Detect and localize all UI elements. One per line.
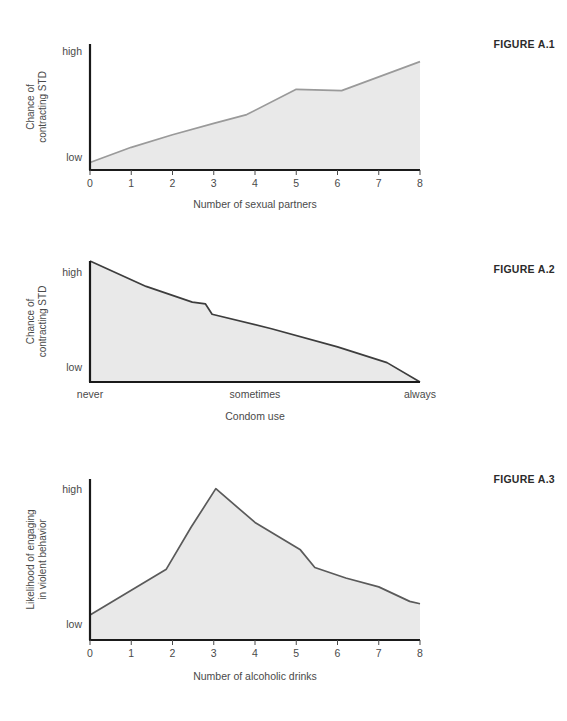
y-axis-title-line: Chance of xyxy=(25,298,36,344)
x-tick-label: 1 xyxy=(128,177,134,189)
area-fill xyxy=(90,261,420,382)
figure-a3-block: FIGURE A.3 highlow012345678Number of alc… xyxy=(0,455,567,705)
x-tick-label: 5 xyxy=(293,647,299,659)
y-tick-label-high: high xyxy=(62,266,82,278)
y-axis-title-line: in violent behavior xyxy=(37,519,48,600)
x-tick-label: 0 xyxy=(87,177,93,189)
y-axis-title-line: Likelihood of engaging xyxy=(25,509,36,609)
y-axis-title: Chance ofcontracting STD xyxy=(25,71,48,143)
y-axis-title-line: Chance of xyxy=(25,84,36,130)
y-tick-label-high: high xyxy=(62,483,82,495)
x-category-label: never xyxy=(77,388,104,400)
y-tick-label-low: low xyxy=(66,618,82,630)
x-tick-label: 2 xyxy=(170,647,176,659)
x-tick-label: 5 xyxy=(293,177,299,189)
figure-a2-plot: highlowneversometimesalwaysCondom useCha… xyxy=(0,245,460,440)
figure-a2-block: FIGURE A.2 highlowneversometimesalwaysCo… xyxy=(0,245,567,440)
figure-a3-plot: highlow012345678Number of alcoholic drin… xyxy=(0,455,460,705)
y-tick-label-low: low xyxy=(66,151,82,163)
x-tick-label: 4 xyxy=(252,647,258,659)
x-tick-label: 3 xyxy=(211,177,217,189)
area-fill xyxy=(90,62,420,170)
area-fill xyxy=(90,489,420,640)
figure-a2-caption: FIGURE A.2 xyxy=(493,263,555,275)
figure-a1-plot: highlow012345678Number of sexual partner… xyxy=(0,20,460,230)
x-category-label: always xyxy=(404,388,436,400)
x-category-label: sometimes xyxy=(230,388,281,400)
x-tick-label: 6 xyxy=(335,647,341,659)
figure-a3-caption: FIGURE A.3 xyxy=(493,473,555,485)
x-tick-label: 3 xyxy=(211,647,217,659)
x-tick-label: 7 xyxy=(376,647,382,659)
x-tick-label: 2 xyxy=(170,177,176,189)
x-tick-label: 8 xyxy=(417,177,423,189)
figure-a1-block: FIGURE A.1 highlow012345678Number of sex… xyxy=(0,20,567,230)
y-tick-label-high: high xyxy=(62,45,82,57)
y-axis-title-line: contracting STD xyxy=(37,71,48,143)
x-axis-title: Number of alcoholic drinks xyxy=(193,670,317,682)
x-axis-title: Number of sexual partners xyxy=(193,198,317,210)
x-tick-label: 0 xyxy=(87,647,93,659)
figure-a1-caption: FIGURE A.1 xyxy=(493,38,555,50)
x-tick-label: 8 xyxy=(417,647,423,659)
x-axis-title: Condom use xyxy=(225,410,285,422)
y-axis-title-line: contracting STD xyxy=(37,286,48,358)
y-axis-title: Likelihood of engagingin violent behavio… xyxy=(25,509,48,609)
y-axis-title: Chance ofcontracting STD xyxy=(25,286,48,358)
x-tick-label: 7 xyxy=(376,177,382,189)
x-tick-label: 4 xyxy=(252,177,258,189)
y-tick-label-low: low xyxy=(66,361,82,373)
x-tick-label: 1 xyxy=(128,647,134,659)
x-tick-label: 6 xyxy=(335,177,341,189)
